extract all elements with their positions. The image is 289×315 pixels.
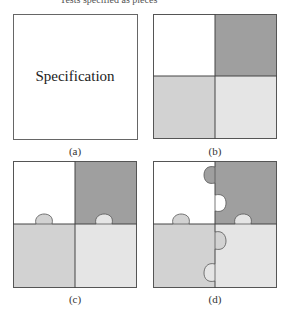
caption-d: (d) <box>153 293 277 305</box>
panel-d-grid <box>0 0 289 315</box>
